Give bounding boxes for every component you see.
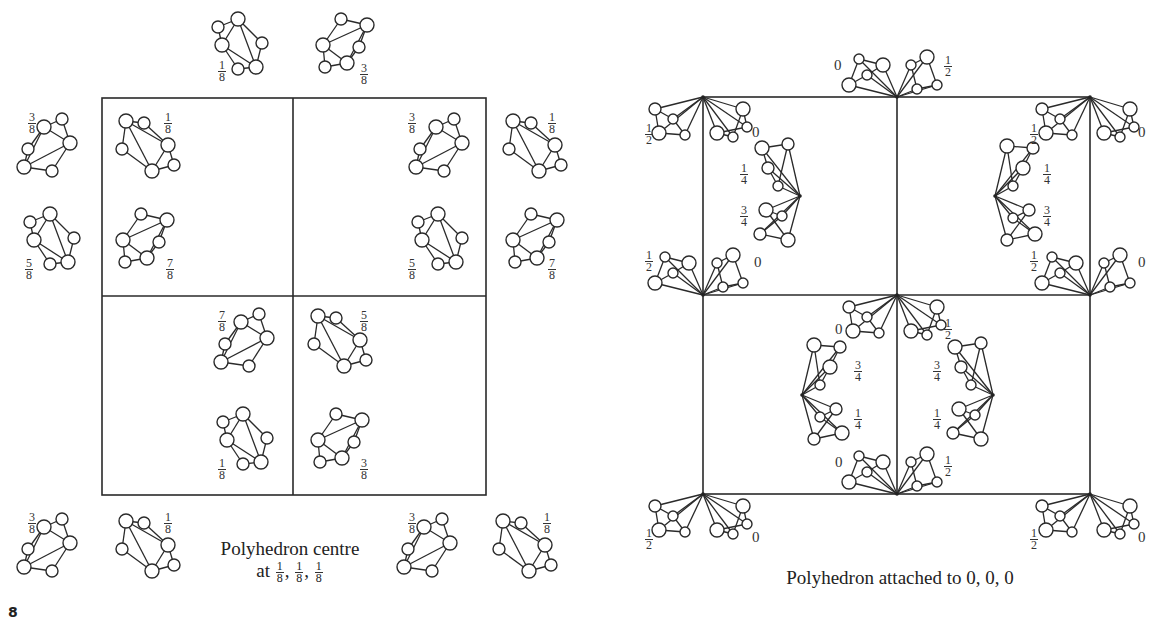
atom-circle [548,138,562,152]
polyhedron [409,113,469,177]
vertex-point [701,492,705,496]
atom-circle [736,102,750,116]
height-label: 38 [360,63,368,86]
atom-circle [862,467,872,477]
atom-circle [215,38,229,52]
atom-circle [348,436,360,448]
height-label: 12 [1030,528,1038,551]
height-label: 12 [645,250,653,273]
atom-circle [1129,519,1139,529]
atom-circle [648,276,662,290]
atom-circle [649,103,661,115]
height-label: 12 [645,123,653,146]
height-label: 12 [645,528,653,551]
atom-circle [22,143,34,155]
atom-circle [236,407,250,421]
atom-circle [456,232,468,244]
atom-circle [436,513,448,525]
atom-circle [1028,227,1042,241]
atom-circle [63,536,77,550]
atom-circle [311,433,325,447]
atom-circle [56,113,68,125]
atom-circle [710,523,724,537]
atom-circle [522,564,536,578]
atom-circle [506,233,520,247]
vertex-polyhedron-cluster [649,95,752,142]
atom-circle [920,447,934,461]
vertex-point [1088,492,1092,496]
atom-circle [668,114,678,124]
height-label: 0 [835,322,843,337]
atom-circle [219,338,231,350]
atom-circle [438,165,450,177]
atom-circle [27,233,41,247]
atom-circle [947,427,959,439]
left-caption-line1: Polyhedron centre [190,538,390,560]
atom-circle [24,216,36,228]
atom-circle [550,213,564,227]
atom-circle [738,278,748,288]
atom-circle [261,432,273,444]
atom-circle [448,113,460,125]
atom-circle [728,132,738,142]
atom-circle [314,456,326,468]
atom-circle [37,120,51,134]
atom-circle [755,141,769,155]
atom-circle [254,455,268,469]
atom-circle [1125,278,1135,288]
atom-circle [44,258,56,270]
atom-circle [414,143,426,155]
atom-circle [834,341,846,353]
vertex-point [701,95,705,99]
height-label: 12 [1030,250,1038,273]
caption-frac-x: 18 [276,561,284,584]
polyhedron [397,513,457,577]
atom-circle [876,58,890,72]
left-panel-unit-cell [17,12,567,578]
caption-frac-z: 18 [315,561,323,584]
atom-circle [876,455,890,469]
atom-circle [353,41,365,53]
atom-circle [432,258,444,270]
atom-circle [854,54,864,64]
height-label: 34 [933,360,941,383]
caption-frac-y: 18 [295,561,303,584]
height-label: 18 [164,112,172,135]
atom-circle [1023,204,1035,216]
height-label: 14 [740,163,748,186]
atom-circle [46,165,58,177]
atom-circle [43,207,57,221]
atom-circle [426,565,438,577]
atom-circle [402,543,414,555]
polyhedron [412,207,468,270]
atom-circle [948,340,962,354]
atom-circle [506,114,520,128]
atom-circle [335,13,347,25]
atom-circle [532,164,546,178]
vertex-point [800,393,804,397]
atom-circle [555,159,567,171]
atom-circle [160,213,174,227]
atom-circle [412,216,424,228]
atom-circle [904,324,918,338]
height-label: 18 [543,512,551,535]
atom-circle [409,160,423,174]
atom-circle [974,432,988,446]
atom-circle [116,543,128,555]
vertex-polyhedron-cluster [800,338,849,445]
atom-circle [1115,132,1125,142]
atom-circle [415,233,429,247]
atom-circle [668,511,678,521]
height-label: 34 [740,205,748,228]
atom-circle [906,457,916,467]
atom-circle [668,268,678,278]
atom-circle [754,228,766,240]
atom-circle [682,256,696,270]
height-label: 0 [754,255,762,270]
atom-circle [846,324,860,338]
atom-circle [145,164,159,178]
atom-circle [68,232,80,244]
vertex-polyhedron-cluster [947,337,995,446]
left-caption-line2: at 18, 18, 18 [190,560,390,584]
atom-circle [842,78,856,92]
